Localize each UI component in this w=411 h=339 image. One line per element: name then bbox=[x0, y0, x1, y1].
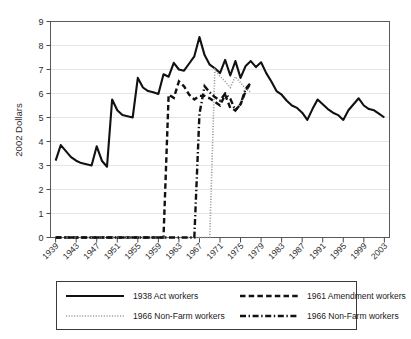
x-axis-ticks: 1939194319471951195519591963196719711975… bbox=[40, 238, 389, 262]
x-tick-label: 1939 bbox=[40, 241, 61, 262]
data-series-layer bbox=[56, 37, 385, 237]
x-tick-label: 1967 bbox=[184, 241, 205, 262]
x-tick-label: 1947 bbox=[81, 241, 102, 262]
x-tick-label: 1943 bbox=[61, 241, 82, 262]
x-tick-label: 1971 bbox=[204, 241, 225, 262]
y-tick-label: 1 bbox=[38, 209, 43, 219]
x-tick-label: 1975 bbox=[225, 241, 246, 262]
x-tick-label: 1979 bbox=[246, 241, 267, 262]
y-tick-label: 7 bbox=[38, 65, 43, 75]
x-tick-label: 1999 bbox=[348, 241, 369, 262]
x-tick-label: 1963 bbox=[163, 241, 184, 262]
x-tick-label: 1959 bbox=[143, 241, 164, 262]
x-tick-label: 2003 bbox=[369, 241, 390, 262]
x-tick-label: 1955 bbox=[122, 241, 143, 262]
y-axis-title-text: 2002 Dollars bbox=[13, 103, 24, 157]
legend-label-2: 1966 Non-Farm workers bbox=[133, 311, 225, 321]
series-line-2 bbox=[56, 70, 251, 238]
legend-label-1: 1961 Amendment workers bbox=[307, 291, 406, 301]
x-tick-label: 1991 bbox=[307, 241, 328, 262]
series-line-1 bbox=[56, 82, 251, 238]
y-tick-label: 3 bbox=[38, 161, 43, 171]
x-tick-label: 1951 bbox=[102, 241, 123, 262]
gridlines bbox=[51, 22, 390, 238]
chart-container: 2002 Dollars 0123456789 1939194319471951… bbox=[0, 0, 411, 339]
line-chart: 2002 Dollars 0123456789 1939194319471951… bbox=[0, 0, 411, 339]
y-tick-label: 0 bbox=[38, 233, 43, 243]
x-tick-label: 1983 bbox=[266, 241, 287, 262]
chart-legend: 1938 Act workers1961 Amendment workers19… bbox=[57, 282, 406, 330]
y-tick-label: 8 bbox=[38, 41, 43, 51]
plot-frame bbox=[51, 22, 390, 238]
legend-border bbox=[57, 282, 357, 330]
x-tick-label: 1995 bbox=[328, 241, 349, 262]
legend-label-3: 1966 Non-Farm workers bbox=[307, 311, 399, 321]
legend-label-0: 1938 Act workers bbox=[133, 291, 198, 301]
y-axis-title: 2002 Dollars bbox=[13, 103, 24, 157]
y-axis-ticks: 0123456789 bbox=[38, 17, 50, 243]
series-line-3 bbox=[56, 83, 251, 238]
y-tick-label: 9 bbox=[38, 17, 43, 27]
x-tick-label: 1987 bbox=[287, 241, 308, 262]
y-tick-label: 6 bbox=[38, 89, 43, 99]
y-tick-label: 2 bbox=[38, 185, 43, 195]
y-tick-label: 4 bbox=[38, 137, 43, 147]
y-tick-label: 5 bbox=[38, 113, 43, 123]
